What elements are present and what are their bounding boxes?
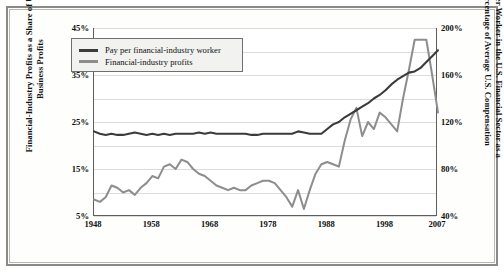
x-axis-tick-label: 1958 [143, 220, 160, 229]
x-axis-ticks: 1948195819681978198819982007 [93, 220, 437, 236]
legend-label-pay: Pay per financial-industry worker [105, 46, 221, 55]
y-axis-right-tick-label: 200% [441, 24, 462, 33]
y-axis-left-tick-label: 35% [72, 71, 89, 80]
y-axis-right-tick-label: 80% [441, 165, 458, 174]
legend-item-profits: Financial-industry profits [79, 58, 235, 67]
x-axis-tick-label: 1988 [318, 220, 335, 229]
y-axis-right-tick-label: 160% [441, 71, 462, 80]
y-axis-left-tick-label: 45% [72, 24, 89, 33]
legend-swatch-dark-line-icon [79, 49, 98, 52]
legend-label-profits: Financial-industry profits [105, 58, 193, 67]
chart-figure: Financial-Industry Profits as a Share of… [0, 0, 504, 272]
y-axis-left-tick-label: 25% [72, 118, 89, 127]
legend-swatch-gray-line-icon [79, 60, 98, 63]
x-axis-tick-label: 1948 [84, 220, 101, 229]
legend-item-pay: Pay per financial-industry worker [79, 46, 235, 55]
y-axis-left-title: Financial-Industry Profits as a Share of… [24, 0, 47, 164]
y-axis-left-tick-label: 15% [72, 165, 89, 174]
x-axis-tick-label: 2007 [428, 220, 445, 229]
y-axis-right-ticks: 40%80%120%160%200% [441, 28, 487, 216]
chart-legend: Pay per financial-industry worker Financ… [71, 38, 243, 72]
x-axis-tick-label: 1968 [201, 220, 218, 229]
y-axis-right-tick-label: 120% [441, 118, 462, 127]
x-axis-tick-label: 1978 [259, 220, 276, 229]
x-axis-tick-label: 1998 [376, 220, 393, 229]
